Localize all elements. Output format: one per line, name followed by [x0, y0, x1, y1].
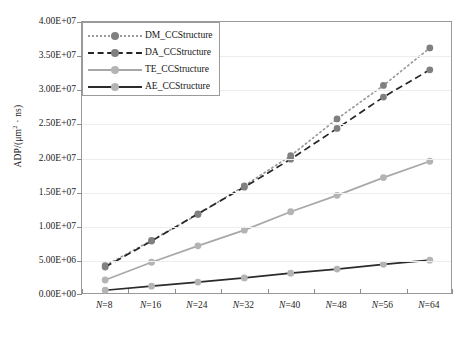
data-point: [102, 277, 109, 284]
data-point: [287, 270, 294, 277]
x-axis-tick-label: N=32: [233, 300, 254, 310]
y-axis-tick-mark: [77, 159, 82, 160]
x-axis-tick-label: N=16: [140, 300, 161, 310]
legend-swatch: [88, 64, 142, 76]
data-point: [287, 208, 294, 215]
legend-swatch: [88, 30, 142, 42]
x-axis-tick-mark: [82, 289, 83, 294]
x-axis-tick-mark: [175, 289, 176, 294]
gridline: [82, 227, 451, 228]
x-axis-tick-mark: [268, 289, 269, 294]
data-point: [334, 266, 341, 273]
y-axis-tick-label: 0.00E+00: [14, 289, 76, 299]
data-point: [241, 184, 248, 191]
y-axis-tick-labels: 0.00E+005.00E+061.00E+071.50E+072.00E+07…: [10, 0, 76, 337]
y-axis-tick-label: 2.50E+07: [14, 118, 76, 128]
gridline: [82, 261, 451, 262]
data-point: [334, 116, 341, 123]
x-axis-tick-mark: [452, 289, 453, 294]
legend-label: DM_CCStructure: [142, 30, 213, 41]
legend-item[interactable]: AE_CCStructure: [83, 78, 219, 95]
x-axis-tick-label: N=8: [96, 300, 112, 310]
x-axis-tick-label: N=48: [325, 300, 346, 310]
data-point: [380, 174, 387, 181]
y-axis-tick-label: 2.00E+07: [14, 153, 76, 163]
x-axis-tick-mark: [360, 289, 361, 294]
data-point: [195, 279, 202, 286]
figure-caption-fragment: [0, 327, 468, 337]
gridline: [82, 193, 451, 194]
gridline: [82, 159, 451, 160]
legend-marker: [111, 83, 119, 91]
data-point: [102, 264, 109, 271]
x-axis-tick-label: N=24: [186, 300, 207, 310]
y-axis-tick-label: 1.50E+07: [14, 187, 76, 197]
data-point: [148, 238, 155, 245]
legend-marker: [111, 32, 119, 40]
legend-item[interactable]: TE_CCStructure: [83, 61, 219, 78]
data-point: [334, 125, 341, 132]
data-point: [380, 82, 387, 89]
x-axis-tick-mark: [128, 289, 129, 294]
y-axis-tick-label: 5.00E+06: [14, 255, 76, 265]
y-axis-tick-mark: [77, 227, 82, 228]
data-point: [241, 275, 248, 282]
legend-label: AE_CCStructure: [142, 81, 210, 92]
legend-swatch: [88, 47, 142, 59]
x-axis-tick-mark: [221, 289, 222, 294]
data-point: [148, 259, 155, 266]
y-axis-tick-label: 4.00E+07: [14, 16, 76, 26]
x-axis-tick-label: N=56: [372, 300, 393, 310]
y-axis-tick-label: 1.00E+07: [14, 221, 76, 231]
data-point: [195, 210, 202, 217]
y-axis-tick-label: 3.00E+07: [14, 84, 76, 94]
x-axis-tick-label: N=64: [418, 300, 439, 310]
chart-legend: DM_CCStructureDA_CCStructureTE_CCStructu…: [82, 22, 220, 96]
y-axis-tick-label: 3.50E+07: [14, 50, 76, 60]
data-point: [380, 261, 387, 268]
legend-swatch: [88, 81, 142, 93]
legend-label: DA_CCStructure: [142, 47, 211, 58]
chart-figure: ADP/(μm2 · ns) 0.00E+005.00E+061.00E+071…: [0, 0, 468, 337]
gridline: [82, 124, 451, 125]
x-axis-tick-mark: [407, 289, 408, 294]
data-point: [148, 283, 155, 290]
data-point: [426, 45, 433, 52]
data-point: [102, 287, 109, 294]
y-axis-tick-mark: [77, 294, 82, 295]
y-axis-tick-mark: [77, 124, 82, 125]
data-point: [195, 242, 202, 249]
series-da_ccstructure: [102, 66, 433, 270]
legend-item[interactable]: DM_CCStructure: [83, 27, 219, 44]
data-point: [380, 94, 387, 101]
data-point: [426, 66, 433, 73]
x-axis-tick-mark: [314, 289, 315, 294]
x-axis-tick-label: N=40: [279, 300, 300, 310]
legend-marker: [111, 49, 119, 57]
data-point: [241, 227, 248, 234]
legend-marker: [111, 66, 119, 74]
y-axis-tick-mark: [77, 261, 82, 262]
legend-label: TE_CCStructure: [142, 64, 209, 75]
y-axis-tick-mark: [77, 193, 82, 194]
legend-item[interactable]: DA_CCStructure: [83, 44, 219, 61]
